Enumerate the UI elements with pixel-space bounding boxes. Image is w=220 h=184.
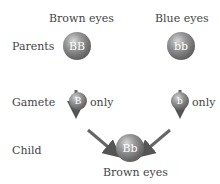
parent-right-phenotype: Blue eyes [155, 12, 209, 25]
child-phenotype: Brown eyes [103, 166, 168, 179]
child-genotype: Bb [122, 142, 137, 155]
row-label-child: Child [12, 144, 42, 157]
parent-left-genotype: BB [69, 40, 85, 53]
parent-right-genotype: bb [174, 40, 188, 53]
gamete-left-note: only [90, 96, 113, 109]
parent-right-sphere: bb [167, 32, 195, 60]
parent-left-phenotype: Brown eyes [49, 12, 114, 25]
gamete-right-sphere: b [171, 92, 189, 110]
child-sphere: Bb [116, 134, 144, 162]
gamete-right-allele: b [177, 96, 183, 106]
gamete-right-note: only [192, 96, 215, 109]
row-label-parents: Parents [12, 40, 54, 53]
row-label-gamete: Gamete [12, 96, 55, 109]
gamete-left-sphere: B [69, 92, 87, 110]
gamete-left-allele: B [75, 96, 82, 106]
parent-left-sphere: BB [63, 32, 91, 60]
